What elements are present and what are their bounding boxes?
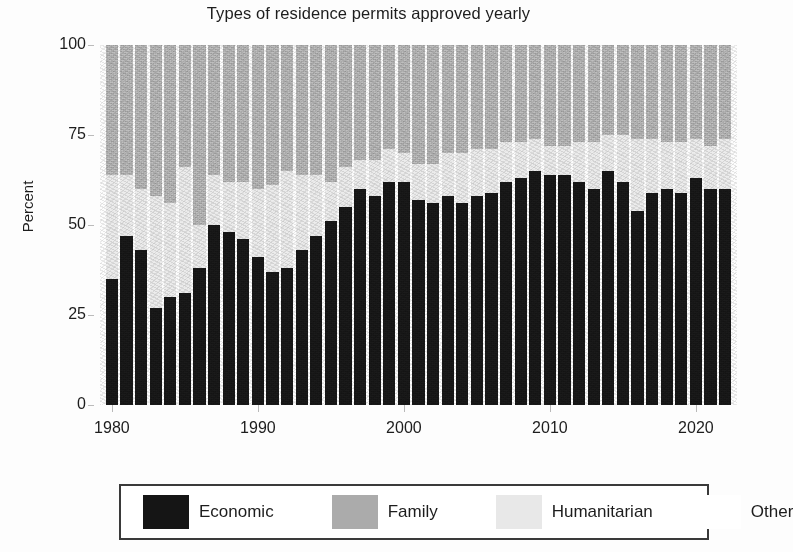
- bar-segment-economic: [471, 196, 483, 405]
- bar-column: [281, 45, 293, 405]
- bar-column: [310, 45, 322, 405]
- x-tick-label: 2010: [515, 419, 585, 437]
- bar-column: [661, 45, 673, 405]
- x-tick-mark: [404, 405, 405, 412]
- bar-segment-economic: [602, 171, 614, 405]
- bar-column: [164, 45, 176, 405]
- bar-segment-family: [179, 45, 191, 167]
- bar-segment-economic: [252, 257, 264, 405]
- bar-segment-economic: [704, 189, 716, 405]
- bar-column: [646, 45, 658, 405]
- bar-column: [471, 45, 483, 405]
- bar-segment-economic: [150, 308, 162, 405]
- legend-swatch-other-icon: [695, 495, 741, 529]
- bar-segment-humanitarian: [573, 142, 585, 182]
- bar-column: [150, 45, 162, 405]
- bar-segment-economic: [398, 182, 410, 405]
- bar-segment-humanitarian: [150, 196, 162, 308]
- bar-segment-family: [296, 45, 308, 175]
- bar-column: [296, 45, 308, 405]
- bar-segment-economic: [515, 178, 527, 405]
- bar-segment-family: [412, 45, 424, 164]
- chart-title: Types of residence permits approved year…: [0, 4, 737, 23]
- bar-segment-economic: [339, 207, 351, 405]
- x-tick-mark: [550, 405, 551, 412]
- bar-segment-humanitarian: [485, 149, 497, 192]
- bar-column: [631, 45, 643, 405]
- bar-segment-economic: [223, 232, 235, 405]
- bar-column: [223, 45, 235, 405]
- bar-column: [529, 45, 541, 405]
- bar-segment-family: [456, 45, 468, 153]
- bar-segment-humanitarian: [529, 139, 541, 171]
- bar-column: [354, 45, 366, 405]
- bar-segment-family: [719, 45, 731, 139]
- bar-segment-economic: [120, 236, 132, 405]
- bar-segment-humanitarian: [558, 146, 570, 175]
- bar-segment-humanitarian: [383, 149, 395, 181]
- bar-segment-humanitarian: [704, 146, 716, 189]
- bar-segment-family: [558, 45, 570, 146]
- y-tick-mark: [88, 405, 94, 406]
- bar-segment-family: [208, 45, 220, 175]
- bar-segment-economic: [179, 293, 191, 405]
- bar-segment-humanitarian: [120, 175, 132, 236]
- bar-segment-family: [602, 45, 614, 135]
- y-tick-label: 100: [24, 35, 86, 53]
- x-tick-label: 1980: [77, 419, 147, 437]
- bar-segment-humanitarian: [266, 185, 278, 271]
- bar-segment-family: [106, 45, 118, 175]
- bar-column: [719, 45, 731, 405]
- bar-segment-humanitarian: [296, 175, 308, 251]
- bar-segment-humanitarian: [106, 175, 118, 279]
- bar-segment-family: [383, 45, 395, 149]
- y-tick-mark: [88, 135, 94, 136]
- bar-segment-family: [398, 45, 410, 153]
- bar-segment-economic: [544, 175, 556, 405]
- bar-segment-economic: [690, 178, 702, 405]
- bar-segment-humanitarian: [369, 160, 381, 196]
- bar-segment-economic: [588, 189, 600, 405]
- legend-entry-humanitarian[interactable]: Humanitarian: [496, 486, 653, 538]
- bar-segment-family: [529, 45, 541, 139]
- bar-segment-family: [631, 45, 643, 139]
- bar-segment-family: [544, 45, 556, 146]
- bar-column: [369, 45, 381, 405]
- x-tick-label: 2020: [661, 419, 731, 437]
- bar-segment-family: [500, 45, 512, 142]
- legend-entry-economic[interactable]: Economic: [143, 486, 274, 538]
- legend-label-humanitarian: Humanitarian: [552, 502, 653, 522]
- bar-segment-family: [252, 45, 264, 189]
- bar-segment-humanitarian: [325, 182, 337, 222]
- y-tick-mark: [88, 225, 94, 226]
- bar-column: [544, 45, 556, 405]
- bar-column: [266, 45, 278, 405]
- bar-segment-economic: [325, 221, 337, 405]
- bar-segment-family: [325, 45, 337, 182]
- bar-segment-humanitarian: [208, 175, 220, 225]
- legend-entry-family[interactable]: Family: [332, 486, 438, 538]
- bar-segment-family: [281, 45, 293, 171]
- bar-segment-humanitarian: [354, 160, 366, 189]
- bar-segment-humanitarian: [427, 164, 439, 204]
- y-tick-mark: [88, 315, 94, 316]
- bar-segment-humanitarian: [237, 182, 249, 240]
- y-tick-mark: [88, 45, 94, 46]
- bar-segment-humanitarian: [617, 135, 629, 182]
- bar-column: [515, 45, 527, 405]
- bar-segment-family: [442, 45, 454, 153]
- legend-swatch-economic-icon: [143, 495, 189, 529]
- bar-segment-humanitarian: [412, 164, 424, 200]
- bar-segment-economic: [529, 171, 541, 405]
- bar-segment-economic: [296, 250, 308, 405]
- bar-column: [573, 45, 585, 405]
- bar-column: [325, 45, 337, 405]
- legend-label-family: Family: [388, 502, 438, 522]
- bar-segment-family: [471, 45, 483, 149]
- bar-segment-humanitarian: [602, 135, 614, 171]
- bar-segment-family: [266, 45, 278, 185]
- legend-entry-other[interactable]: Other: [695, 486, 793, 538]
- bar-segment-humanitarian: [500, 142, 512, 182]
- bar-segment-humanitarian: [398, 153, 410, 182]
